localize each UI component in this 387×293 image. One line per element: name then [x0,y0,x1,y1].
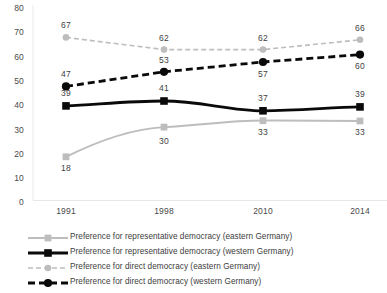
data-label-rep-east-2014: 33 [343,128,377,137]
data-point-rep-west-2014 [356,103,364,111]
data-point-direct-east-2014 [357,37,364,44]
data-label-direct-east-2014: 66 [343,24,377,33]
data-label-rep-east-2010: 33 [246,128,280,137]
data-point-rep-west-2010 [259,107,267,115]
data-label-direct-east-2010: 62 [246,34,280,43]
legend-label-direct-west: Preference for direct democracy (western… [70,278,261,286]
series-line-rep-west [66,101,360,111]
line-chart: 80 70 60 50 40 30 20 10 0 [0,0,387,293]
data-label-rep-west-1998: 41 [147,84,181,93]
legend-marker-rep-west [26,246,70,260]
data-label-direct-east-1998: 62 [147,34,181,43]
data-label-rep-west-2010: 37 [246,94,280,103]
legend-marker-rep-east [26,231,70,245]
data-point-direct-east-2010 [260,46,267,53]
legend-label-rep-west: Preference for representative democracy … [70,248,294,256]
data-point-direct-east-1998 [161,46,168,53]
data-label-direct-east-1991: 67 [49,21,83,30]
data-point-direct-west-1998 [160,68,168,76]
legend-marker-direct-east [26,261,70,275]
data-point-direct-west-2014 [356,51,364,59]
data-label-direct-west-2014: 60 [343,62,377,71]
x-axis-tick-1998: 1998 [139,207,189,216]
series-line-direct-west [66,55,360,87]
data-point-rep-west-1991 [62,102,70,110]
x-axis-tick-1991: 1991 [41,207,91,216]
legend-item-rep-west[interactable]: Preference for representative democracy … [26,245,387,260]
data-point-rep-west-1998 [160,97,168,105]
data-label-direct-west-2010: 57 [246,70,280,79]
legend-item-direct-west[interactable]: Preference for direct democracy (western… [26,275,387,290]
data-label-rep-west-2014: 39 [343,90,377,99]
data-point-direct-east-1991 [63,34,70,41]
legend-marker-direct-west [26,276,70,290]
data-label-rep-west-1991: 39 [49,89,83,98]
data-point-rep-east-1998 [161,124,168,131]
data-label-direct-west-1998: 53 [147,56,181,65]
series-line-direct-east [66,37,360,49]
data-point-rep-east-2010 [260,117,267,124]
data-label-rep-east-1998: 30 [147,137,181,146]
data-point-direct-west-2010 [259,58,267,66]
legend-item-direct-east[interactable]: Preference for direct democracy (eastern… [26,260,387,275]
x-axis-tick-2010: 2010 [238,207,288,216]
legend-label-rep-east: Preference for representative democracy … [70,233,292,241]
data-point-rep-east-2014 [357,118,364,125]
data-label-direct-west-1991: 47 [49,70,83,79]
plot-area [0,0,387,225]
series-line-rep-east [66,121,360,157]
legend-item-rep-east[interactable]: Preference for representative democracy … [26,230,387,245]
data-point-rep-east-1991 [63,153,70,160]
data-label-rep-east-1991: 18 [49,164,83,173]
x-axis-tick-2014: 2014 [335,207,385,216]
legend-label-direct-east: Preference for direct democracy (eastern… [70,263,260,271]
chart-legend: Preference for representative democracy … [26,230,387,290]
